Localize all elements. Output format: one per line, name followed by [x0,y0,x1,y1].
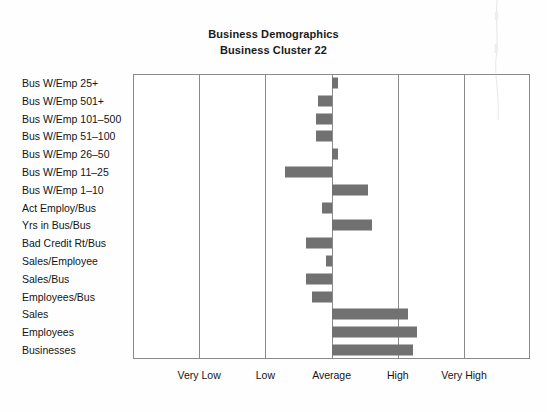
table-row: Bad Credit Rt/Bus [0,234,547,252]
table-row: Sales [0,306,547,324]
bar [332,309,408,320]
category-label: Bus W/Emp 26–50 [22,148,127,160]
category-label: Bus W/Emp 25+ [22,77,127,89]
table-row: Bus W/Emp 11–25 [0,163,547,181]
bar [332,184,368,195]
bar [332,327,417,338]
category-label: Bus W/Emp 11–25 [22,166,127,178]
category-label: Bad Credit Rt/Bus [22,237,127,249]
table-row: Sales/Bus [0,270,547,288]
category-label: Bus W/Emp 51–100 [22,130,127,142]
category-label: Bus W/Emp 101–500 [22,113,127,125]
x-tick-label: Low [256,368,275,382]
bar [306,238,331,249]
bar [306,273,331,284]
bar [326,256,331,267]
table-row: Bus W/Emp 25+ [0,74,547,92]
page-title: Business Demographics [0,26,547,42]
category-label: Act Employ/Bus [22,202,127,214]
x-tick-label: Very Low [178,368,221,382]
category-label: Sales/Employee [22,255,127,267]
x-tick-label: Very High [441,368,487,382]
bar [332,149,338,160]
table-row: Bus W/Emp 1–10 [0,181,547,199]
bar [318,95,331,106]
table-row: Act Employ/Bus [0,199,547,217]
bar [332,345,413,356]
category-label: Businesses [22,344,127,356]
table-row: Bus W/Emp 101–500 [0,110,547,128]
chart-page: Business Demographics Business Cluster 2… [0,0,547,412]
category-label: Sales/Bus [22,273,127,285]
table-row: Bus W/Emp 51–100 [0,127,547,145]
bar [332,77,338,88]
table-row: Bus W/Emp 26–50 [0,145,547,163]
category-label: Yrs in Bus/Bus [22,219,127,231]
bar [322,202,332,213]
x-tick-label: Average [312,368,351,382]
category-label: Bus W/Emp 501+ [22,95,127,107]
bar [316,113,332,124]
bar [285,166,331,177]
table-row: Employees [0,323,547,341]
table-row: Businesses [0,341,547,359]
bar [316,131,331,142]
table-row: Sales/Employee [0,252,547,270]
chart-title-block: Business Demographics Business Cluster 2… [0,26,547,58]
x-tick-label: High [387,368,409,382]
bar [312,291,331,302]
table-row: Bus W/Emp 501+ [0,92,547,110]
category-label: Employees/Bus [22,291,127,303]
x-axis-tick-labels: Very LowLowAverageHighVery High [0,368,547,384]
table-row: Employees/Bus [0,288,547,306]
category-label: Sales [22,308,127,320]
table-row: Yrs in Bus/Bus [0,217,547,235]
page-subtitle: Business Cluster 22 [0,42,547,58]
category-label: Employees [22,326,127,338]
bar-rows: Bus W/Emp 25+Bus W/Emp 501+Bus W/Emp 101… [0,74,547,359]
bar [332,220,372,231]
category-label: Bus W/Emp 1–10 [22,184,127,196]
